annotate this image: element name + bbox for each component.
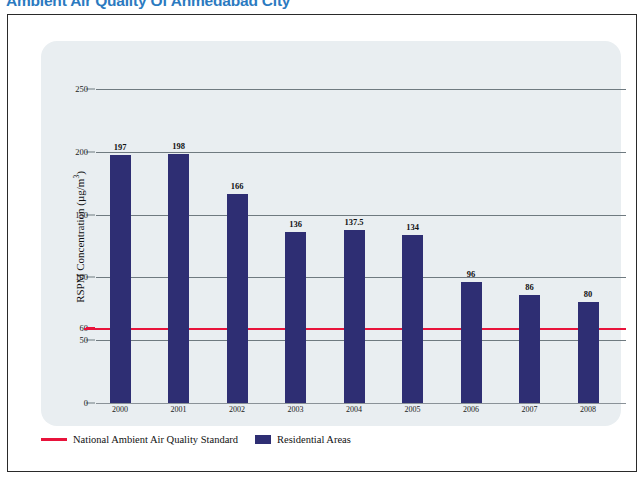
bar: 166 [227,194,248,403]
standard-reference-tick [86,327,95,329]
bar-value-label: 197 [114,142,127,152]
y-tick-label: 150 [75,210,92,220]
x-tick-label: 2004 [346,405,362,414]
legend-label-residential: Residential Areas [277,434,351,445]
legend-label-standard: National Ambient Air Quality Standard [73,434,238,445]
legend-item-standard: National Ambient Air Quality Standard [41,434,238,445]
bar: 136 [285,232,306,403]
x-tick-label: 2008 [580,405,596,414]
gridline [96,89,626,90]
bar: 137.5 [344,230,365,403]
bar: 80 [578,302,599,403]
figure-frame: RSPM Concentration (µg/m3) 0501001502002… [7,14,637,472]
bar-value-label: 96 [467,269,476,279]
gridline [96,403,626,404]
bar-value-label: 137.5 [344,217,363,227]
y-axis-title-close-paren: ) [74,171,86,175]
y-tick-label: 0 [84,398,92,408]
bar: 197 [110,155,131,403]
bar-value-label: 86 [525,282,534,292]
page-title: Ambient Air Quality Of Ahmedabad City [6,0,290,10]
y-tick-label: 50 [80,335,93,345]
x-tick-label: 2001 [171,405,187,414]
x-tick-label: 2002 [229,405,245,414]
bar: 134 [402,235,423,403]
bar-value-label: 198 [172,141,185,151]
x-tick-label: 2006 [463,405,479,414]
x-tick-label: 2003 [288,405,304,414]
bar: 198 [168,154,189,403]
gridline [96,152,626,153]
x-tick-label: 2000 [112,405,128,414]
bar-value-label: 166 [231,181,244,191]
y-axis-title-exponent: 3 [72,174,81,178]
bar: 86 [519,295,540,403]
x-tick-label: 2007 [522,405,538,414]
y-axis-title-text: RSPM Concentration (µg/m [74,178,86,302]
plot-area: RSPM Concentration (µg/m3) 0501001502002… [96,70,626,403]
chart-legend: National Ambient Air Quality Standard Re… [41,434,351,445]
bar-value-label: 134 [406,222,419,232]
y-axis-title: RSPM Concentration (µg/m3) [72,171,86,303]
legend-line-swatch-icon [41,438,67,440]
y-tick-label: 200 [75,147,92,157]
bar-value-label: 136 [289,219,302,229]
y-tick-label: 100 [75,272,92,282]
legend-item-residential: Residential Areas [255,434,351,445]
bar: 96 [461,282,482,403]
y-tick-label: 250 [75,84,92,94]
bar-value-label: 80 [584,289,593,299]
legend-box-swatch-icon [255,435,271,444]
x-tick-label: 2005 [405,405,421,414]
